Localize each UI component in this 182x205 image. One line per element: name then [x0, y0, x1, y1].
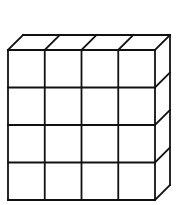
cube-grid-diagram	[0, 0, 182, 205]
cube-grid-drawing	[0, 0, 182, 205]
